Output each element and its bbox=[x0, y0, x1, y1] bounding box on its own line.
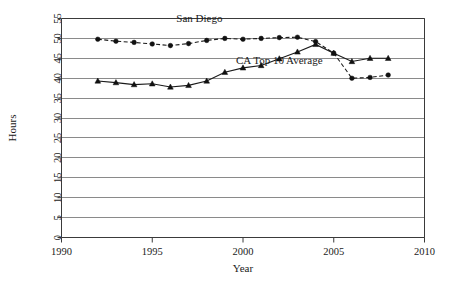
data-point-circle bbox=[96, 37, 101, 42]
data-point-circle bbox=[114, 39, 119, 44]
data-point-circle bbox=[295, 35, 300, 40]
data-point-circle bbox=[223, 36, 228, 41]
series-annotation-ca-top-10-average: CA Top 10 Average bbox=[236, 54, 323, 66]
data-point-circle bbox=[204, 38, 209, 43]
x-tick-label: 2000 bbox=[233, 246, 254, 257]
x-tick-label: 2010 bbox=[414, 246, 435, 257]
data-point-circle bbox=[150, 42, 155, 47]
data-point-circle bbox=[350, 76, 355, 81]
series-annotation-san-diego: San Diego bbox=[176, 12, 223, 24]
data-point-circle bbox=[259, 36, 264, 41]
plot-frame bbox=[62, 19, 425, 238]
x-axis-ticks: 19901995200020052010 bbox=[51, 238, 435, 257]
data-point-circle bbox=[186, 41, 191, 46]
x-tick-label: 1990 bbox=[51, 246, 72, 257]
grid-lines bbox=[62, 19, 425, 238]
y-axis-title: Hours bbox=[6, 115, 18, 142]
data-point-triangle bbox=[95, 78, 101, 83]
data-point-circle bbox=[168, 43, 173, 48]
data-point-circle bbox=[277, 35, 282, 40]
x-axis-title: Year bbox=[233, 262, 254, 274]
clipped-footer-caption bbox=[0, 283, 454, 291]
x-tick-label: 2005 bbox=[323, 246, 344, 257]
data-point-circle bbox=[368, 75, 373, 80]
chart-container: 0510152025303540455055 19901995200020052… bbox=[0, 0, 454, 291]
data-point-circle bbox=[132, 40, 137, 45]
line-chart: 0510152025303540455055 19901995200020052… bbox=[0, 0, 454, 291]
data-point-circle bbox=[241, 37, 246, 42]
data-point-circle bbox=[386, 73, 391, 78]
x-tick-label: 1995 bbox=[142, 246, 163, 257]
